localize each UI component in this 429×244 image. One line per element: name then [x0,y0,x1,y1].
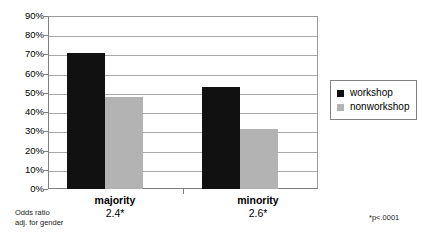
y-axis-tick-label-40: 40% [2,107,44,117]
gridline-80 [49,36,317,37]
y-axis-tick-label-20: 20% [2,146,44,156]
y-axis-tick-label-60: 60% [2,69,44,79]
odds-ratio-value-minority: 2.6* [198,207,318,220]
odds-ratio-note-line2: adj. for gender [15,218,63,228]
legend-label-nonworkshop: nonworkshop [350,101,409,113]
x-axis-label-minority: minority [198,194,318,207]
gridline-10 [49,171,317,172]
nonworkshop-swatch-icon [337,104,344,111]
gridline-60 [49,75,317,76]
odds-ratio-note-line1: Odds ratio [15,208,63,218]
y-axis-tick-label-30: 30% [2,126,44,136]
chart-legend: workshop nonworkshop [330,80,417,120]
y-axis: 0%10%20%30%40%50%60%70%80%90% [0,16,44,189]
x-axis-group-majority: majority 2.4* [55,194,175,220]
odds-ratio-value-majority: 2.4* [55,207,175,220]
legend-label-workshop: workshop [350,87,393,99]
legend-item-nonworkshop: nonworkshop [337,100,409,114]
x-axis-group-minority: minority 2.6* [198,194,318,220]
gridline-40 [49,113,317,114]
gridline-70 [49,55,317,56]
gridline-20 [49,152,317,153]
significance-note: *p<.0001 [369,213,399,223]
gridline-50 [49,94,317,95]
odds-ratio-note: Odds ratio adj. for gender [15,208,63,228]
y-axis-tick-label-80: 80% [2,30,44,40]
x-axis-label-majority: majority [55,194,175,207]
bar-chart: 0%10%20%30%40%50%60%70%80%90% majority 2… [0,0,429,244]
workshop-swatch-icon [337,90,344,97]
y-axis-tick-label-50: 50% [2,88,44,98]
y-axis-tick-label-0: 0% [2,184,44,194]
y-axis-tick-label-10: 10% [2,165,44,175]
y-axis-tick-mark-0 [44,189,48,190]
gridline-30 [49,132,317,133]
plot-area [48,16,318,189]
legend-item-workshop: workshop [337,86,409,100]
y-axis-tick-label-70: 70% [2,49,44,59]
x-axis-category-tick [183,189,184,194]
y-axis-tick-label-90: 90% [2,11,44,21]
